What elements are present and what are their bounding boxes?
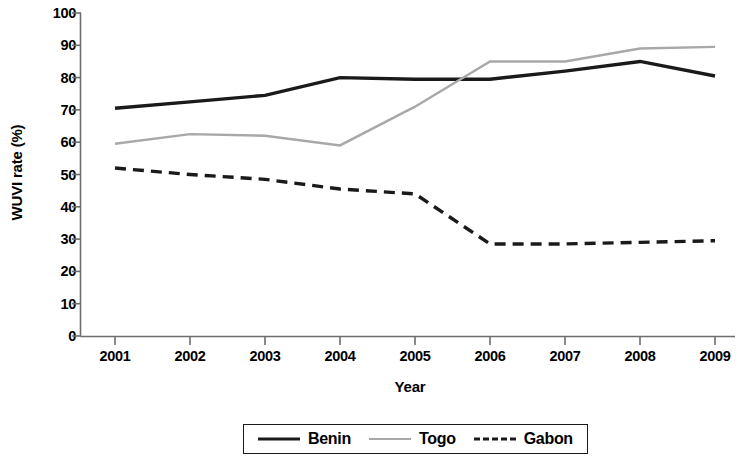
x-axis-tick-label: 2006 — [455, 348, 525, 364]
x-axis-tick-labels: 200120022003200420052006200720082009 — [0, 348, 740, 372]
line-chart: WUVI rate (%) 1009080706050403020100 200… — [0, 0, 740, 457]
x-axis-tick-label: 2004 — [305, 348, 375, 364]
legend-item-benin: Benin — [258, 430, 351, 448]
series-line-gabon — [115, 168, 715, 244]
y-axis-ticks — [72, 13, 81, 336]
legend-label: Benin — [308, 430, 351, 448]
x-axis-title-container: Year — [90, 378, 730, 396]
solid-dark-line-icon — [258, 432, 300, 446]
x-axis-tick-label: 2003 — [230, 348, 300, 364]
legend-label: Togo — [419, 430, 456, 448]
legend-item-togo: Togo — [369, 430, 456, 448]
legend-item-gabon: Gabon — [474, 430, 573, 448]
x-axis-ticks — [115, 336, 715, 345]
dashed-dark-line-icon — [474, 432, 516, 446]
x-axis-tick-label: 2009 — [680, 348, 740, 364]
x-axis-tick-label: 2001 — [80, 348, 150, 364]
x-axis-tick-label: 2008 — [605, 348, 675, 364]
x-axis-title: Year — [395, 378, 426, 395]
x-axis-tick-label: 2005 — [380, 348, 450, 364]
plot-area — [0, 0, 740, 360]
data-series-layer — [115, 47, 715, 244]
legend-label: Gabon — [524, 430, 573, 448]
x-axis-tick-label: 2007 — [530, 348, 600, 364]
series-line-benin — [115, 61, 715, 108]
solid-gray-line-icon — [369, 432, 411, 446]
x-axis-tick-label: 2002 — [155, 348, 225, 364]
chart-legend: BeninTogoGabon — [243, 424, 588, 454]
